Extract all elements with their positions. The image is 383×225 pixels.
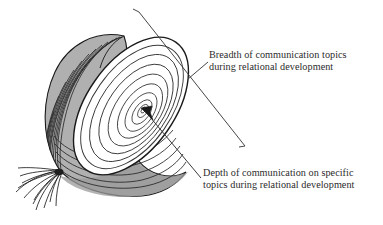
breadth-callout-line-1: Breadth of communication topics xyxy=(209,49,347,61)
breadth-callout-label: Breadth of communication topics during r… xyxy=(209,49,347,74)
onion-root-knot xyxy=(55,169,64,175)
figure-canvas: Breadth of communication topics during r… xyxy=(0,0,383,225)
onion-roots xyxy=(16,168,61,210)
depth-callout-line-1: Depth of communication on specific xyxy=(203,167,354,179)
breadth-leader-line xyxy=(188,62,208,79)
depth-callout-line-2: topics during relational development xyxy=(203,179,354,191)
breadth-bracket-tick-top xyxy=(133,9,139,12)
depth-leader-line xyxy=(150,117,201,178)
breadth-bracket-tick-bottom xyxy=(239,146,245,147)
breadth-callout-line-2: during relational development xyxy=(209,61,347,73)
depth-callout-label: Depth of communication on specific topic… xyxy=(203,167,354,192)
